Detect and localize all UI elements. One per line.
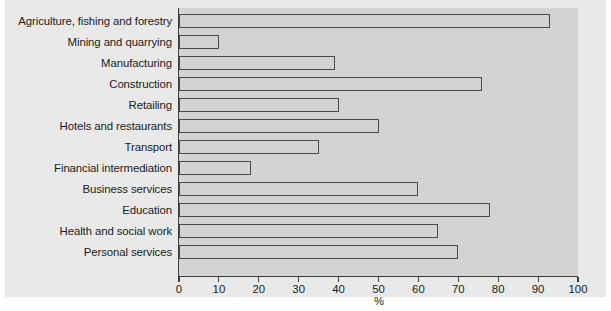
x-tick-label: 70 bbox=[452, 283, 465, 295]
bar-row: Financial intermediation bbox=[0, 158, 611, 179]
bar-row: Retailing bbox=[0, 95, 611, 116]
x-tick-mark bbox=[178, 277, 179, 282]
category-label: Agriculture, fishing and forestry bbox=[18, 11, 172, 32]
x-axis-title: % bbox=[374, 295, 384, 307]
bar bbox=[179, 98, 339, 112]
x-tick-label: 60 bbox=[412, 283, 425, 295]
bar bbox=[179, 77, 482, 91]
x-tick-mark bbox=[577, 277, 578, 282]
x-tick-mark bbox=[338, 277, 339, 282]
bar bbox=[179, 140, 319, 154]
bar-row: Personal services bbox=[0, 242, 611, 263]
category-label: Construction bbox=[109, 74, 172, 95]
x-tick-mark bbox=[378, 277, 379, 282]
category-label: Manufacturing bbox=[101, 53, 172, 74]
bar-row: Health and social work bbox=[0, 221, 611, 242]
category-label: Retailing bbox=[129, 95, 172, 116]
bar-row: Mining and quarrying bbox=[0, 32, 611, 53]
bar bbox=[179, 182, 418, 196]
x-tick-mark bbox=[258, 277, 259, 282]
x-tick-label: 0 bbox=[176, 283, 182, 295]
bar-row: Agriculture, fishing and forestry bbox=[0, 11, 611, 32]
bar bbox=[179, 245, 458, 259]
bar bbox=[179, 161, 251, 175]
bar bbox=[179, 35, 219, 49]
bar bbox=[179, 224, 438, 238]
category-label: Transport bbox=[125, 137, 172, 158]
x-tick-mark bbox=[218, 277, 219, 282]
bar-row: Manufacturing bbox=[0, 53, 611, 74]
x-tick-label: 50 bbox=[372, 283, 385, 295]
x-tick-label: 100 bbox=[568, 283, 587, 295]
category-label: Education bbox=[122, 200, 172, 221]
x-tick-label: 10 bbox=[213, 283, 226, 295]
x-tick-mark bbox=[298, 277, 299, 282]
x-tick-label: 80 bbox=[492, 283, 505, 295]
x-tick-label: 90 bbox=[532, 283, 545, 295]
category-label: Personal services bbox=[84, 242, 172, 263]
bar-row: Education bbox=[0, 200, 611, 221]
category-label: Business services bbox=[83, 179, 172, 200]
x-tick-label: 30 bbox=[292, 283, 305, 295]
x-tick-label: 20 bbox=[252, 283, 265, 295]
bar bbox=[179, 56, 335, 70]
x-tick-mark bbox=[538, 277, 539, 282]
bar-row: Business services bbox=[0, 179, 611, 200]
x-tick-mark bbox=[418, 277, 419, 282]
x-tick-mark bbox=[458, 277, 459, 282]
bar-row: Construction bbox=[0, 74, 611, 95]
bar-row: Transport bbox=[0, 137, 611, 158]
x-tick-label: 40 bbox=[332, 283, 345, 295]
figure: Agriculture, fishing and forestryMining … bbox=[0, 0, 611, 311]
category-label: Hotels and restaurants bbox=[60, 116, 172, 137]
x-tick-mark bbox=[498, 277, 499, 282]
bar bbox=[179, 14, 550, 28]
category-label: Financial intermediation bbox=[54, 158, 172, 179]
bar-row: Hotels and restaurants bbox=[0, 116, 611, 137]
bar bbox=[179, 119, 379, 133]
horizontal-bar-chart: Agriculture, fishing and forestryMining … bbox=[0, 0, 611, 311]
category-label: Mining and quarrying bbox=[68, 32, 172, 53]
category-label: Health and social work bbox=[60, 221, 172, 242]
bar bbox=[179, 203, 490, 217]
